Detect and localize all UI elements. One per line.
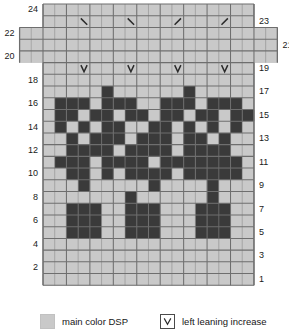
row-number-left-8: 8 [0, 193, 38, 202]
left-leaning-increase-icon [160, 314, 175, 329]
legend-item-main-color: main color DSP [40, 314, 128, 329]
row-number-right-11: 11 [259, 158, 268, 167]
legend-item-left-leaning-increase: left leaning increase [160, 314, 267, 329]
row-number-right-17: 17 [259, 87, 269, 96]
row-number-right-21: 21 [282, 41, 289, 50]
row-number-left-12: 12 [0, 146, 38, 155]
row-number-left-20: 20 [0, 52, 15, 61]
row-number-left-2: 2 [0, 263, 38, 272]
row-number-left-14: 14 [0, 123, 38, 132]
row-number-left-16: 16 [0, 99, 38, 108]
row-number-right-3: 3 [259, 251, 264, 260]
legend-label-left-leaning-increase: left leaning increase [182, 316, 267, 327]
row-number-left-4: 4 [0, 240, 38, 249]
row-number-right-23: 23 [259, 17, 269, 26]
row-number-right-1: 1 [259, 275, 264, 284]
chart-grid [0, 0, 289, 310]
row-number-right-7: 7 [259, 205, 264, 214]
row-number-right-9: 9 [259, 181, 264, 190]
main-color-swatch [40, 314, 55, 329]
row-number-left-22: 22 [0, 29, 15, 38]
knitting-chart: 242220181614121086422321191715131197531 … [0, 0, 289, 335]
row-number-right-19: 19 [259, 64, 269, 73]
row-number-left-18: 18 [0, 76, 38, 85]
row-number-left-6: 6 [0, 216, 38, 225]
legend-label-main-color: main color DSP [62, 316, 128, 327]
row-number-right-5: 5 [259, 228, 264, 237]
chart-legend: main color DSP left leaning increase [0, 312, 289, 332]
row-number-left-24: 24 [0, 5, 38, 14]
row-number-right-13: 13 [259, 134, 269, 143]
row-number-right-15: 15 [259, 111, 269, 120]
row-number-left-10: 10 [0, 169, 38, 178]
